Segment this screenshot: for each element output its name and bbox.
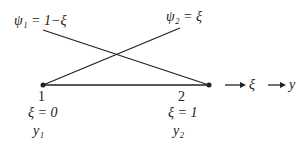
psi2-label: ψ₂ = ξ <box>166 10 202 24</box>
psi1-label: ψ₁ = 1−ξ <box>14 14 66 28</box>
y-arrow-icon <box>280 82 286 88</box>
node-2-dot <box>207 83 212 88</box>
y-axis-label: y <box>289 78 295 92</box>
node-2-xi: ξ = 1 <box>168 106 197 120</box>
xi-arrow-icon <box>240 82 246 88</box>
node-2-value: y₂ <box>173 124 184 138</box>
node-2-number: 2 <box>178 90 185 104</box>
node-1-value: y₁ <box>33 124 44 138</box>
node-1-number: 1 <box>38 90 45 104</box>
node-1-xi: ξ = 0 <box>28 106 57 120</box>
xi-axis-label: ξ <box>249 78 255 92</box>
node-1-dot <box>41 83 46 88</box>
psi1-line <box>43 30 209 85</box>
